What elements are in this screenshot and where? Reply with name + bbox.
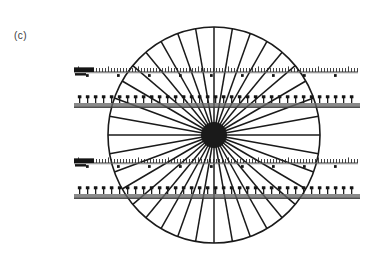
ruler-tick [311, 189, 312, 194]
ruler-marker [270, 95, 273, 98]
ruler-tick [150, 68, 151, 72]
ruler-tick [279, 68, 280, 72]
ruler-tick [255, 98, 256, 103]
ruler-tick [247, 189, 248, 194]
ruler-marker [134, 186, 137, 189]
ruler-tick [199, 98, 200, 103]
ruler-marker [350, 95, 353, 98]
ruler-tick [303, 189, 304, 194]
ruler-marker [303, 74, 306, 77]
ruler-tick [294, 68, 295, 72]
ruler-marker [118, 95, 121, 98]
ruler-tick [223, 98, 224, 103]
ruler-bar-edge [74, 107, 360, 108]
ruler-tick [258, 158, 259, 164]
ruler-marker [238, 186, 241, 189]
radial-ruler-figure [0, 0, 380, 257]
ruler-tick [237, 68, 238, 72]
ruler-tick [138, 158, 139, 164]
ruler-tick [95, 189, 96, 194]
ruler-tick [114, 159, 115, 163]
ruler-tick [153, 159, 154, 163]
ruler-tick [165, 159, 166, 163]
ruler-tick [156, 68, 157, 72]
ruler-tick [150, 159, 151, 163]
ruler-tick [186, 159, 187, 163]
ruler-marker [179, 165, 182, 168]
ruler-tick [231, 98, 232, 103]
ruler-tick [243, 68, 244, 72]
ruler-tick [348, 67, 349, 73]
ruler-marker [174, 186, 177, 189]
ruler-tick [285, 159, 286, 163]
ruler-tick [207, 68, 208, 72]
ruler-marker [318, 95, 321, 98]
ruler-tick [309, 68, 310, 72]
ruler-tick [127, 189, 128, 194]
ruler-tick [167, 189, 168, 194]
ruler-tick [318, 158, 319, 164]
ruler-tick [295, 98, 296, 103]
ruler-marker [254, 95, 257, 98]
ruler-tick [111, 68, 112, 72]
ruler-tick [303, 159, 304, 163]
ruler-marker [246, 186, 249, 189]
ruler-marker [102, 186, 105, 189]
ruler-tick [311, 98, 312, 103]
ruler-tick [357, 159, 358, 163]
ruler-tick [159, 98, 160, 103]
ruler-tick [222, 159, 223, 163]
ruler-tick [171, 159, 172, 163]
ruler-marker [294, 186, 297, 189]
ruler-marker [198, 186, 201, 189]
ruler-tick [189, 159, 190, 163]
ruler-tick [240, 159, 241, 163]
ruler-marker [94, 186, 97, 189]
ruler-tick [175, 189, 176, 194]
ruler-tick [303, 98, 304, 103]
ruler-tick [312, 68, 313, 72]
ruler-marker [246, 95, 249, 98]
ruler-marker [350, 186, 353, 189]
ruler-tick [287, 189, 288, 194]
ruler-tick [95, 98, 96, 103]
ruler-tick [175, 98, 176, 103]
ruler-tick [105, 68, 106, 72]
ruler-tick [345, 159, 346, 163]
ruler-tick [156, 159, 157, 163]
ruler-tick [199, 189, 200, 194]
ruler-tick [231, 189, 232, 194]
ruler-tick [135, 189, 136, 194]
ruler-left-blob-lower [75, 73, 86, 75]
ruler-tick [246, 68, 247, 72]
ruler-tick [99, 68, 100, 72]
ruler-tick [132, 159, 133, 163]
ruler-marker [190, 95, 193, 98]
ruler-tick [191, 98, 192, 103]
ruler-marker [148, 165, 151, 168]
ruler-marker [334, 95, 337, 98]
ruler-marker [342, 95, 345, 98]
ruler-tick [261, 68, 262, 72]
ruler-tick [144, 68, 145, 72]
ruler-tick [171, 68, 172, 72]
ruler-tick [327, 98, 328, 103]
ruler-tick [287, 98, 288, 103]
ruler-tick [267, 68, 268, 72]
ruler-tick [119, 98, 120, 103]
ruler-tick [279, 98, 280, 103]
ruler-marker [166, 186, 169, 189]
ruler-marker [78, 95, 81, 98]
ruler-tick [195, 159, 196, 163]
ruler-tick [159, 68, 160, 72]
ruler-tick [177, 68, 178, 72]
ruler-tick [343, 189, 344, 194]
ruler-marker [326, 95, 329, 98]
ruler-tick [201, 159, 202, 163]
ruler-tick [354, 159, 355, 163]
ruler-marker [334, 186, 337, 189]
ruler-tick [240, 68, 241, 72]
ruler-bar-edge [74, 198, 360, 199]
ruler-tick [111, 189, 112, 194]
ruler-marker [142, 95, 145, 98]
